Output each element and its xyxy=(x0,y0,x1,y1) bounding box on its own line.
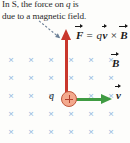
lorentz-force-equation: F = qv × B xyxy=(76,29,128,41)
field-into-page-mark: × xyxy=(87,55,96,64)
field-into-page-mark: × xyxy=(47,109,56,118)
field-into-page-mark: × xyxy=(107,109,116,118)
field-into-page-mark: × xyxy=(107,127,116,136)
velocity-label-arrow-tip xyxy=(118,84,121,88)
equation-velocity-arrow-tip xyxy=(104,24,107,28)
physics-figure-magnetic-force: ×××××××××××××××××××××××××××××× In S, the… xyxy=(0,0,130,143)
field-into-page-mark: × xyxy=(7,55,16,64)
field-into-page-mark: × xyxy=(87,127,96,136)
field-into-page-mark: × xyxy=(67,127,76,136)
field-label-letter: B xyxy=(112,57,119,69)
caption-line-1: In S, the force on q is xyxy=(2,0,110,11)
velocity-vector-symbol: v xyxy=(116,89,121,101)
field-into-page-mark: × xyxy=(47,55,56,64)
magnetic-field-label: B xyxy=(112,57,119,69)
figure-caption: In S, the force on q is due to a magneti… xyxy=(2,0,110,22)
velocity-label-letter: v xyxy=(116,89,121,101)
field-into-page-mark: × xyxy=(67,109,76,118)
field-vector-symbol: B xyxy=(112,57,119,69)
field-into-page-mark: × xyxy=(27,73,36,82)
field-into-page-mark: × xyxy=(27,91,36,100)
equation-velocity-vector: v xyxy=(103,29,108,41)
equation-velocity-letter: v xyxy=(103,29,108,41)
field-label-arrow-tip xyxy=(116,52,119,56)
equation-field-vector: B xyxy=(120,29,127,41)
field-into-page-mark: × xyxy=(27,55,36,64)
equation-force-vector: F xyxy=(76,29,83,41)
leader-dashed-path xyxy=(39,21,59,37)
field-into-page-mark: × xyxy=(7,91,16,100)
field-into-page-mark: × xyxy=(27,127,36,136)
plus-sign-vertical xyxy=(69,95,71,103)
equation-field-letter: B xyxy=(120,29,127,41)
caption-line-1-part-a: In S, the force on xyxy=(2,0,66,9)
force-arrow-head xyxy=(61,29,71,40)
caption-line-1-part-b: is xyxy=(70,0,78,9)
field-into-page-mark: × xyxy=(7,127,16,136)
field-into-page-mark: × xyxy=(47,127,56,136)
equation-force-arrow-tip xyxy=(80,24,83,28)
equation-cross-product: × xyxy=(107,29,120,41)
charge-label: q xyxy=(49,90,54,101)
velocity-label: v xyxy=(116,89,121,101)
velocity-arrow-head xyxy=(101,94,112,104)
equation-equals: = xyxy=(83,29,96,41)
field-into-page-mark: × xyxy=(107,73,116,82)
equation-force-letter: F xyxy=(76,29,83,41)
caption-line-2: due to a magnetic field. xyxy=(2,11,110,23)
equation-field-arrow-tip xyxy=(125,24,128,28)
positive-charge-marker xyxy=(61,91,77,107)
field-into-page-mark: × xyxy=(87,73,96,82)
field-into-page-mark: × xyxy=(27,109,36,118)
field-into-page-mark: × xyxy=(7,73,16,82)
field-into-page-mark: × xyxy=(7,109,16,118)
field-into-page-mark: × xyxy=(87,109,96,118)
field-into-page-mark: × xyxy=(47,73,56,82)
